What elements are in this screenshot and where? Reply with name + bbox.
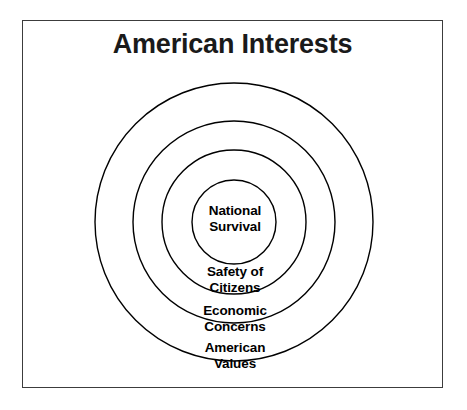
ring-label-line2: Survival xyxy=(175,219,295,235)
ring-label-national-survival: National Survival xyxy=(175,203,295,234)
ring-label-line1: American xyxy=(205,340,266,355)
figure-container: American Interests National Survival Saf… xyxy=(0,0,467,410)
ring-label-economic-concerns: Economic Concerns xyxy=(170,303,300,334)
ring-label-line2: Values xyxy=(170,356,300,372)
ring-label-line1: National xyxy=(209,203,261,218)
ring-label-safety-of-citizens: Safety of Citizens xyxy=(175,264,295,295)
page-title: American Interests xyxy=(22,29,443,60)
ring-label-line1: Safety of xyxy=(207,264,263,279)
ring-label-line1: Economic xyxy=(203,303,267,318)
ring-label-line2: Concerns xyxy=(170,319,300,335)
ring-label-american-values: American Values xyxy=(170,340,300,371)
ring-label-line2: Citizens xyxy=(175,280,295,296)
